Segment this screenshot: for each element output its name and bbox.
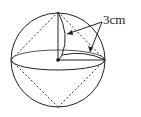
cut-arc: [62, 53, 105, 60]
arrow-line-2: [90, 22, 102, 52]
radius-label: 3cm: [103, 13, 125, 26]
meridian-arc: [58, 12, 65, 60]
sphere-diagram: 3cm: [0, 0, 141, 117]
center-point: [56, 58, 60, 62]
arrowhead-1: [67, 30, 73, 35]
